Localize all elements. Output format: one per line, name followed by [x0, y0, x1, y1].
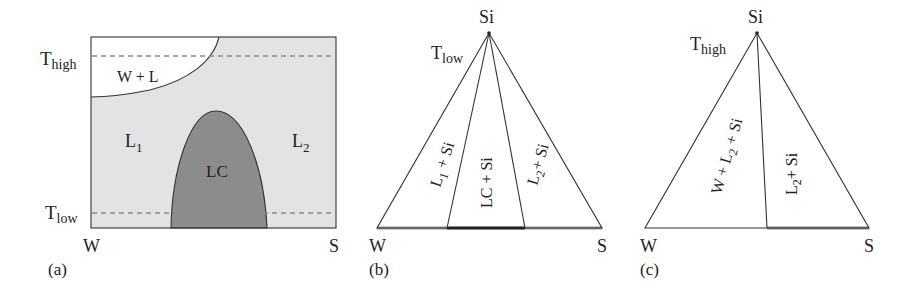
l1-si-label: L1 + Si [427, 139, 461, 190]
caption-b: (b) [369, 260, 389, 279]
panel-c: Si Thigh W + L2 + Si L2+ Si W S (c) [640, 7, 874, 279]
lc-si-label: LC + Si [478, 157, 495, 208]
panel-a: Thigh Tlow W + L L1 L2 LC W S (a) [40, 37, 339, 279]
t-low-label: Tlow [45, 202, 78, 226]
t-low-label-b: Tlow [431, 43, 464, 66]
t-high-label: Thigh [40, 48, 77, 72]
l2-si-label-c: L2+ Si [783, 152, 804, 195]
axis-right-s: S [329, 236, 339, 256]
panel-b: Si Tlow L1 + Si LC + Si L2+ Si W S (b) [369, 7, 607, 279]
t-high-label-c: Thigh [690, 34, 726, 57]
right-s-label-c: S [864, 236, 874, 256]
left-w-label-c: W [640, 236, 657, 256]
apex-si-label-b: Si [479, 7, 494, 27]
w-plus-l-label: W + L [117, 68, 159, 85]
apex-point-c [755, 31, 759, 35]
w-l2-si-label: W + L2 + Si [708, 116, 750, 197]
tie-line-c [757, 33, 767, 228]
lc-label: LC [206, 162, 228, 181]
left-w-label-b: W [369, 236, 386, 256]
caption-a: (a) [48, 260, 67, 279]
apex-si-label-c: Si [748, 7, 763, 27]
apex-point-b [487, 31, 491, 35]
triangle-c [645, 33, 869, 228]
phase-diagram-figure: Thigh Tlow W + L L1 L2 LC W S (a) Si Tlo… [0, 0, 917, 296]
axis-left-w: W [83, 236, 100, 256]
right-s-label-b: S [597, 236, 607, 256]
caption-c: (c) [640, 260, 659, 279]
l2-si-label: L2+ Si [524, 141, 556, 188]
